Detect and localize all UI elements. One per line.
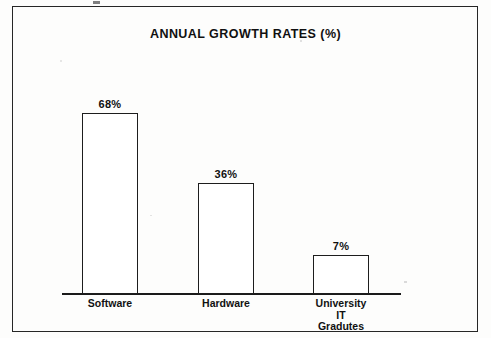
bar-hardware[interactable]: 36% [198,183,254,294]
plot-area: 68% Software 36% Hardware 7% University … [0,0,491,338]
bar-value-label: 36% [215,168,238,180]
chart-page: ANNUAL GROWTH RATES (%) 68% Software 36%… [0,0,491,338]
bar-value-label: 7% [333,240,350,252]
category-label-hardware: Hardware [178,298,274,310]
category-label-software: Software [62,298,158,310]
bar-university-it-gradutes[interactable]: 7% [313,255,369,294]
bar-value-label: 68% [99,98,122,110]
bar-software[interactable]: 68% [82,113,138,294]
category-label-university-it-gradutes: University IT Gradutes [293,298,389,333]
